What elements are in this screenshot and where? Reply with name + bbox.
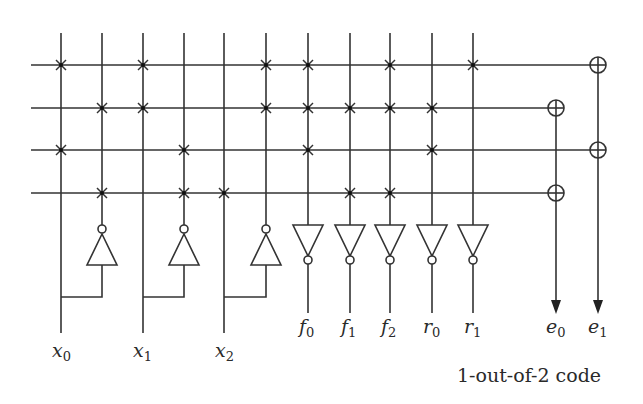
output-inverter-icon: [375, 225, 405, 256]
output-inverter-icon: [335, 225, 365, 256]
inverter-bubble-icon: [386, 256, 394, 264]
gates: [87, 57, 606, 314]
inverter-triangle-icon: [251, 234, 281, 265]
output-inverter-icon: [458, 225, 488, 256]
arrow-down-icon: [593, 300, 603, 314]
caption-code-type: 1-out-of-2 code: [457, 364, 601, 386]
xor-gate-icon: [548, 185, 564, 201]
signal-labels: x0 x1 x2 f0 f1 f2 r0 r1 e0 e1 1-out-of-2…: [52, 315, 608, 386]
inverter-feed-line: [61, 265, 102, 297]
vertical-lines: [61, 33, 598, 333]
inverter-feed-line: [224, 265, 266, 297]
horizontal-product-lines: [31, 65, 590, 193]
label-x0: x0: [52, 339, 71, 364]
label-x2: x2: [215, 339, 234, 364]
label-e1: e1: [588, 315, 608, 340]
label-x1: x1: [133, 339, 152, 364]
inverter-triangle-icon: [87, 234, 117, 265]
label-f2: f2: [379, 315, 396, 340]
label-f0: f0: [297, 315, 314, 340]
label-r0: r0: [423, 315, 440, 340]
label-f1: f1: [339, 315, 356, 340]
output-inverter-icon: [293, 225, 323, 256]
inverter-bubble-icon: [428, 256, 436, 264]
label-r1: r1: [464, 315, 481, 340]
inverter-bubble-icon: [469, 256, 477, 264]
xor-gate-icon: [590, 57, 606, 73]
inverter-bubble-icon: [262, 225, 270, 233]
inverter-bubble-icon: [304, 256, 312, 264]
xor-gate-icon: [590, 142, 606, 158]
pla-error-detection-diagram: x0 x1 x2 f0 f1 f2 r0 r1 e0 e1 1-out-of-2…: [0, 0, 643, 404]
label-e0: e0: [546, 315, 566, 340]
inverter-bubble-icon: [98, 225, 106, 233]
crosspoint-connections: [56, 60, 478, 198]
inverter-triangle-icon: [169, 234, 199, 265]
output-inverter-icon: [417, 225, 447, 256]
inverter-bubble-icon: [180, 225, 188, 233]
xor-gate-icon: [548, 100, 564, 116]
inverter-feed-line: [143, 265, 184, 297]
inverter-bubble-icon: [346, 256, 354, 264]
arrow-down-icon: [551, 300, 561, 314]
